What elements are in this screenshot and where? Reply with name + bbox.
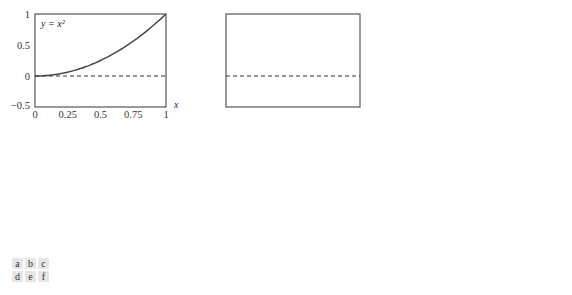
x-tick-label: 0.5 — [94, 109, 107, 120]
x-tick-label: 0.25 — [59, 109, 77, 120]
panel-key-b: b — [25, 258, 36, 269]
panel-key-e: e — [25, 271, 36, 282]
x-tick-label: 0.75 — [124, 109, 142, 120]
x-axis-label: x — [173, 99, 179, 110]
figure-canvas: 10.50−0.500.250.50.751xy = x² — [0, 0, 572, 295]
panel-title: y = x² — [40, 18, 66, 29]
y-tick-label: 0 — [25, 71, 30, 82]
panel-key-d: d — [12, 271, 23, 282]
panel-key-a: a — [12, 258, 23, 269]
panel-key-c: c — [38, 258, 49, 269]
axes-frame — [226, 14, 360, 107]
y-tick-label: −0.5 — [11, 100, 30, 111]
y-tick-label: 0.5 — [17, 40, 30, 51]
x-tick-label: 1 — [163, 109, 168, 120]
panel-legend: a b c d e f — [12, 258, 49, 282]
subplot-b — [226, 14, 360, 107]
y-tick-label: 1 — [25, 9, 30, 20]
panel-key-f: f — [38, 271, 49, 282]
subplot-a: 10.50−0.500.250.50.751xy = x² — [11, 9, 179, 120]
x-tick-label: 0 — [32, 109, 37, 120]
